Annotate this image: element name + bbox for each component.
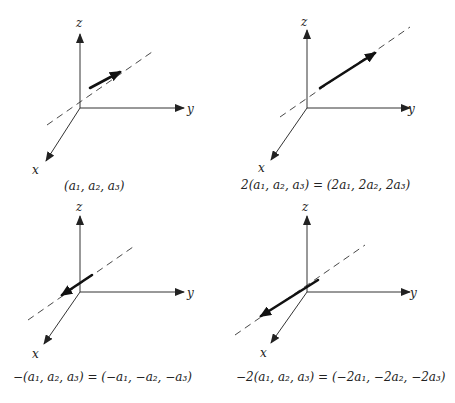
x-axis-label: x [32,347,39,361]
y-axis-label: y [409,286,417,300]
x-axis [271,108,307,160]
vector-line [47,52,152,125]
panel-2-caption: 2(a₁, a₂, a₃) = (2a₁, 2a₂, 2a₃) [240,178,411,192]
panel-1: z y x (a₁, a₂, a₃) [32,16,194,193]
vector-arrow [320,53,375,88]
z-axis-label: z [75,200,83,214]
x-axis-label: x [260,346,267,360]
panel-1-caption: (a₁, a₂, a₃) [64,179,125,193]
z-axis-label: z [301,200,309,214]
vector-arrow [90,72,120,88]
x-axis [44,292,80,344]
vector-arrow [261,280,318,316]
panel-4: z y x −2(a₁, a₂, a₃) = (−2a₁, −2a₂, −2a₃… [235,200,446,384]
panel-4-caption: −2(a₁, a₂, a₃) = (−2a₁, −2a₂, −2a₃) [236,370,446,384]
y-axis-label: y [186,102,194,116]
x-axis [46,108,80,161]
vector-scalar-multiples-diagram: z y x (a₁, a₂, a₃) z y x 2(a₁, a₂, a₃) =… [0,0,455,403]
x-axis-label: x [258,161,265,175]
y-axis-label: y [186,286,194,300]
z-axis-label: z [300,15,308,29]
panel-3-caption: −(a₁, a₂, a₃) = (−a₁, −a₂, −a₃) [13,370,192,384]
x-axis-label: x [32,163,39,177]
panel-2: z y x 2(a₁, a₂, a₃) = (2a₁, 2a₂, 2a₃) [240,15,415,192]
panel-3: z y x −(a₁, a₂, a₃) = (−a₁, −a₂, −a₃) [13,200,194,384]
z-axis-label: z [75,16,83,30]
y-axis-label: y [407,102,415,116]
